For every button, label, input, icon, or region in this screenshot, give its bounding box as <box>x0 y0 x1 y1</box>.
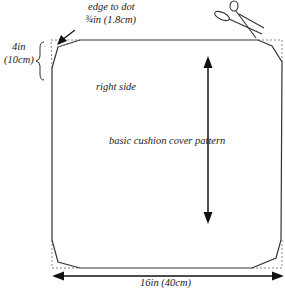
width-label: 16in (40cm) <box>140 277 191 288</box>
corner-height-metric: (10cm) <box>4 54 34 65</box>
scissors-icon <box>213 1 264 38</box>
brace-icon <box>36 42 44 80</box>
right-side-label: right side <box>96 81 136 92</box>
edge-to-dot-measure: ¾in (1.8cm) <box>85 14 136 25</box>
pattern-outline <box>52 40 282 268</box>
edge-to-dot-label: edge to dot <box>88 1 135 12</box>
pattern-name-label: basic cushion cover pattern <box>109 135 225 146</box>
corner-height-label: 4in <box>12 41 25 52</box>
dotted-corner-guides <box>51 40 282 268</box>
